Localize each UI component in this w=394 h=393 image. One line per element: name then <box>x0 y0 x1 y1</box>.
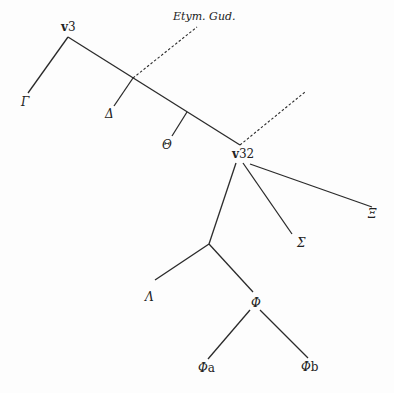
node-theta: Θ <box>162 139 172 151</box>
node-v3-suffix: 3 <box>68 20 76 34</box>
node-lambda: Λ <box>145 291 154 303</box>
node-v3-prefix: v <box>61 20 68 34</box>
edge-phib <box>260 310 308 358</box>
stemma-lines <box>0 0 394 393</box>
edge-lambda <box>155 244 209 280</box>
stemma-diagram: v3 Γ Δ Θ v32 Ξ Σ Λ Φ Φa Φb Etym. Gud. <box>0 0 394 393</box>
node-v32: v32 <box>232 148 254 160</box>
node-phib-prefix: Φ <box>301 360 311 374</box>
edge-phi <box>209 244 253 292</box>
node-xi: Ξ <box>368 208 376 220</box>
node-phi: Φ <box>251 297 261 309</box>
node-phia: Φa <box>198 362 215 374</box>
edge-etym-gud-dotted <box>133 27 197 78</box>
edge-v3-v32 <box>68 37 240 145</box>
edge-v32-hyparchetype <box>209 163 236 244</box>
node-phia-prefix: Φ <box>198 361 208 375</box>
node-etym-gud: Etym. Gud. <box>173 11 236 22</box>
node-phib: Φb <box>301 361 319 373</box>
edge-delta <box>114 78 133 106</box>
node-v32-prefix: v <box>232 147 239 161</box>
node-v32-suffix: 32 <box>239 147 254 161</box>
node-phib-suffix: b <box>311 360 319 374</box>
node-v3: v3 <box>61 21 76 33</box>
node-phia-suffix: a <box>208 361 215 375</box>
edge-theta <box>172 112 187 136</box>
edge-phia <box>208 310 250 359</box>
node-sigma: Σ <box>297 237 305 249</box>
edge-v32-sigma <box>243 163 292 234</box>
edge-lost-source-dotted <box>240 92 305 145</box>
node-delta: Δ <box>105 108 114 120</box>
edge-v3-gamma <box>28 37 68 93</box>
node-gamma: Γ <box>21 96 29 108</box>
